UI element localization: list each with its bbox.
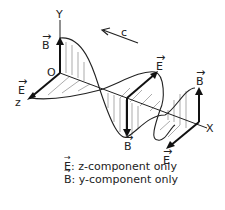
b-arrowhead-right xyxy=(195,87,203,95)
legend-symbol-b: B xyxy=(64,173,72,186)
label-b-right: B → xyxy=(196,66,205,88)
y-axis-label: Y xyxy=(55,8,63,21)
svg-text:→: → xyxy=(42,30,51,43)
propagation-label: c xyxy=(121,26,127,39)
e-vector-mid xyxy=(127,74,155,98)
legend-item-e: E: z-component only xyxy=(64,160,178,173)
label-b-mid: B → xyxy=(124,131,133,153)
origin-label: O xyxy=(47,66,56,79)
svg-text:→: → xyxy=(18,75,27,88)
svg-text:→: → xyxy=(124,131,133,144)
x-axis-label: X xyxy=(206,122,214,135)
legend: E: z-component only B: y-component only xyxy=(64,160,178,186)
label-e-mid: E → xyxy=(156,51,165,73)
label-b-top: B → xyxy=(42,30,51,52)
label-e-left: E → xyxy=(18,75,27,97)
svg-text:→: → xyxy=(163,145,172,158)
svg-text:→: → xyxy=(156,51,165,64)
legend-text-e: : z-component only xyxy=(71,160,177,173)
legend-item-b: B: y-component only xyxy=(64,173,178,186)
e-wave-curve xyxy=(30,72,175,140)
legend-text-b: : y-component only xyxy=(72,173,178,186)
x-axis xyxy=(60,73,207,128)
z-axis-label: z xyxy=(15,96,21,109)
svg-text:→: → xyxy=(196,66,205,79)
